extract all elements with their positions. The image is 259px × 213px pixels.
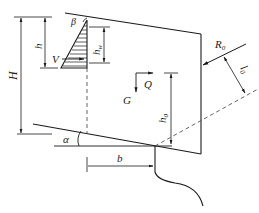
ground-profile-curve <box>155 146 203 206</box>
G-label: G <box>123 94 131 106</box>
force-diagram: α β V H h <box>0 0 259 213</box>
alpha-angle-arc <box>78 131 81 146</box>
alpha-label: α <box>63 133 69 145</box>
block-outline <box>33 13 201 154</box>
beta-label: β <box>70 16 76 27</box>
l0-label: l0 <box>237 63 253 76</box>
v-label: V <box>52 53 60 65</box>
b-label: b <box>117 152 123 164</box>
h0-dimension <box>164 73 178 144</box>
Q-label: Q <box>144 78 152 90</box>
R0-label: R0 <box>214 38 226 52</box>
water-pressure-triangle: β V <box>52 16 87 68</box>
h-label: h <box>32 43 44 49</box>
dashed-action-line <box>155 89 258 146</box>
pressure-triangle <box>61 20 87 68</box>
H-label: H <box>6 70 20 81</box>
hw-label: hw <box>90 45 104 56</box>
h0-label: h0 <box>156 114 170 124</box>
bottom-slope-line <box>33 124 201 154</box>
l0-dimension <box>224 57 245 93</box>
